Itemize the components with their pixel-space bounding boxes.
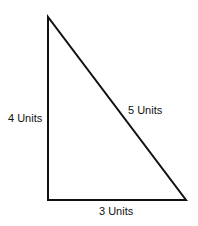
bottom-side-label: 3 Units: [99, 205, 133, 217]
right-triangle: [48, 17, 186, 200]
left-side-label: 4 Units: [8, 112, 42, 124]
hypotenuse-label: 5 Units: [128, 104, 162, 116]
